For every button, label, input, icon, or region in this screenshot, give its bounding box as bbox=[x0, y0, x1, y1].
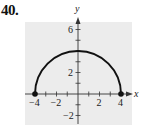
endpoint-left bbox=[32, 91, 38, 97]
y-axis-label: y bbox=[74, 3, 80, 14]
x-tick-label: −4 bbox=[29, 97, 40, 108]
x-tick-label: −2 bbox=[51, 97, 62, 108]
endpoint-right bbox=[118, 91, 124, 97]
x-tick-label: 2 bbox=[97, 97, 102, 108]
y-axis-arrow-icon bbox=[76, 17, 81, 24]
x-axis-label: x bbox=[133, 88, 139, 99]
y-tick-label: 6 bbox=[68, 24, 73, 35]
y-tick-label: 2 bbox=[68, 67, 73, 78]
y-tick-label: −2 bbox=[63, 110, 74, 121]
graph: x y −4 −2 2 4 6 2 −2 bbox=[0, 0, 141, 130]
x-tick-label: 4 bbox=[118, 97, 123, 108]
